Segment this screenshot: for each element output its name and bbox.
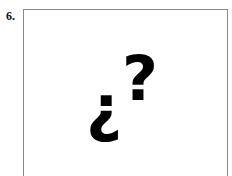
item-number: 6. [6, 9, 15, 24]
illustration-frame: ¿ ? [23, 9, 228, 176]
question-mark-icon: ? [122, 48, 158, 110]
inverted-question-mark-icon: ¿ [86, 78, 122, 140]
